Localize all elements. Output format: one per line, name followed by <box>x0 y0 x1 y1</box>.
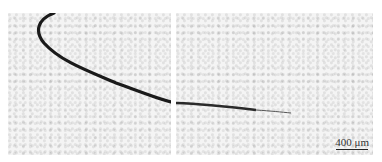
scale-bar-line <box>336 149 368 150</box>
scale-bar: 400 μm <box>335 136 369 150</box>
scale-bar-label: 400 μm <box>335 136 369 148</box>
crack-curve-left <box>8 13 171 155</box>
crack-tip-right <box>176 13 373 155</box>
micrograph-left-panel <box>8 13 171 155</box>
micrograph-right-panel: 400 μm <box>176 13 373 155</box>
